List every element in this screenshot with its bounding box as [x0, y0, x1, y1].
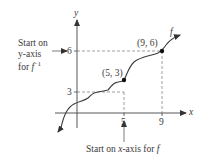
tick-label-y6: 6 — [67, 46, 72, 56]
left-note: Start on y-axis for f−1 — [18, 38, 48, 73]
curve-f-left-arrow — [58, 128, 61, 132]
left-note-line3: for f−1 — [18, 59, 48, 73]
left-note-line2: y-axis — [18, 49, 48, 60]
bottom-note-f: f — [157, 144, 160, 154]
point-5-3 — [122, 78, 126, 82]
point-label-9-6: (9, 6) — [137, 38, 158, 48]
curve-label: f — [170, 27, 173, 37]
left-note-line1: Start on — [18, 38, 48, 49]
left-note-sup: −1 — [34, 60, 41, 67]
y-axis-label: y — [74, 8, 78, 18]
x-axis-label: x — [189, 107, 193, 117]
left-note-for: for — [18, 62, 31, 72]
graph-canvas — [0, 0, 200, 160]
point-9-6 — [160, 49, 164, 53]
tick-label-x5: 5 — [121, 117, 126, 127]
tick-label-y3: 3 — [67, 87, 72, 97]
tick-label-x9: 9 — [159, 117, 164, 127]
bottom-note-prefix: Start on — [86, 144, 118, 154]
point-label-5-3: (5, 3) — [102, 68, 123, 78]
bottom-note-mid: -axis for — [122, 144, 156, 154]
bottom-note: Start on x-axis for f — [86, 144, 159, 154]
